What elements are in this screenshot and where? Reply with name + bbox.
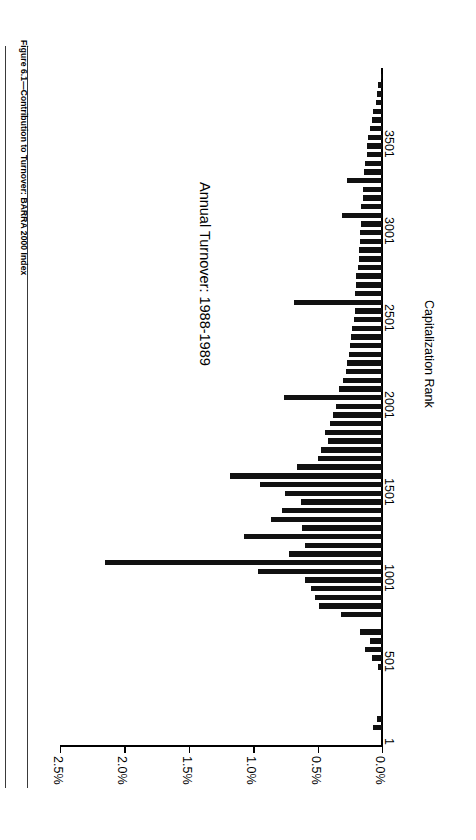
bar <box>377 716 382 721</box>
bar <box>372 117 382 122</box>
bar <box>297 464 382 469</box>
bar <box>319 603 382 608</box>
bar <box>360 629 382 634</box>
bar <box>352 326 382 331</box>
bar <box>359 247 382 252</box>
bar <box>359 256 382 261</box>
bar <box>271 517 382 522</box>
bar <box>341 612 382 617</box>
bar <box>244 534 382 539</box>
bar <box>339 386 382 391</box>
bar <box>370 638 382 643</box>
bar <box>349 352 382 357</box>
bar <box>347 178 382 183</box>
bar <box>336 404 382 409</box>
bar <box>364 169 382 174</box>
bar <box>373 725 382 730</box>
bar <box>356 273 382 278</box>
bar <box>365 647 382 652</box>
bar <box>305 577 382 582</box>
bar <box>347 360 382 365</box>
bar <box>377 91 382 96</box>
bar <box>356 282 382 287</box>
bar <box>350 343 382 348</box>
bar <box>368 135 382 140</box>
bar <box>365 161 382 166</box>
bar <box>342 213 382 218</box>
bar <box>372 655 382 660</box>
chart-plot-area: 0.0%0.5%1.0%1.5%2.0%2.5% 150110011501200… <box>0 0 476 840</box>
bar <box>355 291 382 296</box>
bar <box>289 551 382 556</box>
bar <box>321 447 382 452</box>
bar <box>301 499 382 504</box>
bar <box>311 586 382 591</box>
bar <box>367 152 382 157</box>
bar <box>258 569 382 574</box>
bar <box>333 412 382 417</box>
bar <box>361 204 382 209</box>
bar <box>284 395 382 400</box>
figure-page: Figure 6.1—Contribution to Turnover: BAR… <box>0 0 476 840</box>
bar <box>370 126 382 131</box>
bar <box>282 508 382 513</box>
bar <box>346 369 382 374</box>
bar <box>330 421 382 426</box>
bar-series <box>0 0 476 840</box>
bar <box>363 195 382 200</box>
bar <box>360 230 382 235</box>
bar <box>376 100 382 105</box>
bar <box>302 525 382 530</box>
bar <box>285 491 382 496</box>
bar <box>351 334 382 339</box>
bar <box>328 438 382 443</box>
bar <box>361 221 382 226</box>
bar <box>373 109 382 114</box>
bar <box>260 482 382 487</box>
bar <box>358 265 382 270</box>
bar <box>363 187 382 192</box>
bar <box>230 473 382 478</box>
bar <box>378 664 382 669</box>
bar <box>354 317 382 322</box>
bar <box>343 378 382 383</box>
bar <box>367 143 382 148</box>
bar <box>305 543 382 548</box>
bar <box>355 308 382 313</box>
bar <box>360 239 382 244</box>
bar <box>381 74 382 79</box>
bar <box>318 456 382 461</box>
bar <box>325 430 382 435</box>
bar <box>294 300 382 305</box>
bar <box>105 560 382 565</box>
bar <box>315 595 382 600</box>
bar <box>378 82 382 87</box>
